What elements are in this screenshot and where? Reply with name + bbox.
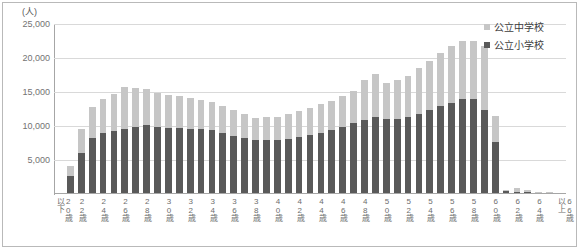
bar-segment-juniorhigh — [230, 110, 237, 135]
bar-stack — [132, 88, 139, 194]
bar-segment-juniorhigh — [241, 114, 248, 138]
bar-segment-elementary — [230, 136, 237, 194]
bar-segment-juniorhigh — [154, 93, 161, 128]
bar-segment-juniorhigh — [383, 83, 390, 118]
bar-stack — [121, 87, 128, 194]
bar-stack — [176, 96, 183, 194]
chart-legend: 公立中学校公立小学校 — [484, 19, 544, 52]
bar-segment-elementary — [263, 140, 270, 194]
y-axis-tick-label: 25,000 — [2, 19, 50, 29]
y-axis-tick-label: 10,000 — [2, 121, 50, 131]
y-axis-unit-label: (人) — [22, 5, 37, 18]
bar-segment-elementary — [339, 127, 346, 194]
bar-segment-elementary — [383, 119, 390, 194]
bar-stack — [209, 102, 216, 194]
bar-segment-juniorhigh — [426, 61, 433, 110]
x-axis-tick-label: 46歳 — [339, 197, 347, 245]
legend-label: 公立中学校 — [494, 19, 544, 34]
bar-stack — [448, 46, 455, 194]
bar-segment-elementary — [89, 138, 96, 194]
legend-item[interactable]: 公立中学校 — [484, 19, 544, 34]
bar-segment-elementary — [285, 139, 292, 194]
legend-label: 公立小学校 — [494, 37, 544, 52]
bar-stack — [89, 107, 96, 194]
bar-segment-elementary — [252, 140, 259, 194]
bar-stack — [339, 96, 346, 194]
bar-segment-elementary — [132, 127, 139, 194]
bar-stack — [285, 114, 292, 194]
bar-stack — [165, 95, 172, 194]
bar-segment-juniorhigh — [67, 166, 74, 175]
x-axis-tick-label: 22歳 — [77, 197, 85, 245]
bar-segment-juniorhigh — [132, 88, 139, 127]
legend-swatch-icon — [484, 24, 490, 30]
x-axis-tick-label: 24歳 — [99, 197, 107, 245]
bar-segment-juniorhigh — [89, 107, 96, 138]
bar-stack — [372, 74, 379, 194]
bar-segment-juniorhigh — [285, 114, 292, 138]
bar-stack — [437, 53, 444, 194]
x-axis-tick-label: 54歳 — [426, 197, 434, 245]
y-axis-tick-label: 5,000 — [2, 155, 50, 165]
x-axis-tick-label: 48歳 — [360, 197, 368, 245]
x-axis-tick-label: 50歳 — [382, 197, 390, 245]
bar-segment-elementary — [426, 110, 433, 194]
bar-segment-elementary — [481, 110, 488, 194]
bar-segment-elementary — [67, 176, 74, 194]
bar-segment-juniorhigh — [100, 99, 107, 133]
bar-stack — [405, 76, 412, 194]
bar-stack — [154, 93, 161, 194]
bar-segment-juniorhigh — [176, 96, 183, 128]
x-axis-tick-labels: 20歳 以下22歳24歳26歳28歳30歳32歳34歳36歳38歳40歳42歳4… — [54, 197, 566, 247]
bar-segment-elementary — [307, 135, 314, 194]
bar-stack — [219, 106, 226, 194]
y-axis-tick-labels: 25,00020,00015,00010,0005,000 — [0, 24, 50, 194]
bar-stack — [394, 80, 401, 194]
bar-stack — [307, 108, 314, 194]
x-axis-tick-label: 66歳 以上 — [557, 197, 573, 245]
bar-segment-elementary — [78, 153, 85, 194]
bar-stack — [230, 110, 237, 194]
bar-stack — [383, 83, 390, 194]
x-axis-tick-label: 38歳 — [252, 197, 260, 245]
x-axis-tick-label: 52歳 — [404, 197, 412, 245]
bar-segment-elementary — [187, 129, 194, 194]
x-axis-tick-label: 32歳 — [186, 197, 194, 245]
bar-segment-elementary — [143, 125, 150, 194]
bar-stack — [78, 129, 85, 194]
bar-segment-elementary — [121, 129, 128, 194]
x-axis-tick-label: 36歳 — [230, 197, 238, 245]
bar-stack — [350, 91, 357, 194]
bar-segment-juniorhigh — [437, 53, 444, 106]
bar-segment-elementary — [274, 140, 281, 194]
bar-stack — [296, 111, 303, 194]
bar-segment-elementary — [361, 120, 368, 194]
legend-item[interactable]: 公立小学校 — [484, 37, 544, 52]
bar-segment-juniorhigh — [361, 80, 368, 120]
bar-segment-juniorhigh — [209, 102, 216, 131]
bar-stack — [318, 104, 325, 194]
x-axis-tick-label: 60歳 — [491, 197, 499, 245]
bar-stack — [143, 89, 150, 194]
bar-stack — [328, 101, 335, 194]
bar-segment-juniorhigh — [219, 106, 226, 133]
bar-segment-juniorhigh — [165, 95, 172, 128]
bar-segment-elementary — [241, 138, 248, 194]
bar-segment-elementary — [318, 133, 325, 194]
bar-segment-elementary — [405, 117, 412, 194]
bar-segment-elementary — [448, 103, 455, 194]
bar-segment-juniorhigh — [318, 104, 325, 133]
bar-segment-juniorhigh — [470, 41, 477, 99]
x-axis-tick-label: 44歳 — [317, 197, 325, 245]
bar-segment-elementary — [296, 137, 303, 194]
bar-segment-juniorhigh — [111, 94, 118, 131]
bar-segment-juniorhigh — [448, 46, 455, 102]
bar-stack — [426, 61, 433, 194]
x-axis-tick-label: 42歳 — [295, 197, 303, 245]
bar-segment-juniorhigh — [78, 129, 85, 153]
x-axis-line — [54, 193, 566, 194]
x-axis-tick-label: 34歳 — [208, 197, 216, 245]
bar-segment-juniorhigh — [394, 80, 401, 119]
bar-segment-juniorhigh — [416, 68, 423, 114]
bar-segment-elementary — [209, 130, 216, 194]
